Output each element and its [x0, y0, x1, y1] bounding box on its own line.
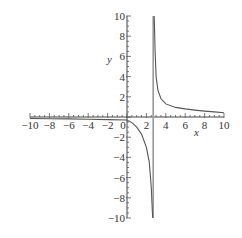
y-tick-label: 6 [120, 50, 126, 62]
x-tick-label: −6 [63, 119, 75, 131]
y-tick-label: 10 [114, 10, 126, 22]
y-tick-label: 4 [120, 71, 126, 83]
y-tick-label: −2 [113, 131, 125, 143]
axis-ticks [30, 16, 224, 218]
x-tick-label: 6 [182, 119, 188, 131]
y-tick-label: −8 [113, 192, 125, 204]
y-axis-label: y [106, 53, 112, 65]
x-tick-label: −4 [82, 119, 94, 131]
x-tick-label: −2 [102, 119, 114, 131]
function-plot: −10−8−6−4−20246810−10−8−6−4−2246810 x y [0, 0, 242, 238]
y-tick-label: 2 [120, 91, 126, 103]
x-tick-label: −10 [21, 119, 39, 131]
y-tick-label: −4 [113, 151, 125, 163]
x-tick-label: 10 [219, 119, 231, 131]
x-tick-label: −8 [44, 119, 56, 131]
x-tick-label: 4 [163, 119, 169, 131]
x-tick-label: 8 [202, 119, 208, 131]
y-tick-label: −6 [113, 172, 125, 184]
left-branch-curve [30, 119, 153, 219]
y-tick-label: −10 [108, 212, 126, 224]
x-tick-label: 0 [120, 119, 126, 131]
x-tick-label: 2 [144, 119, 150, 131]
x-axis-label: x [193, 126, 199, 138]
y-tick-label: 8 [120, 30, 126, 42]
right-branch-curve [154, 16, 224, 113]
